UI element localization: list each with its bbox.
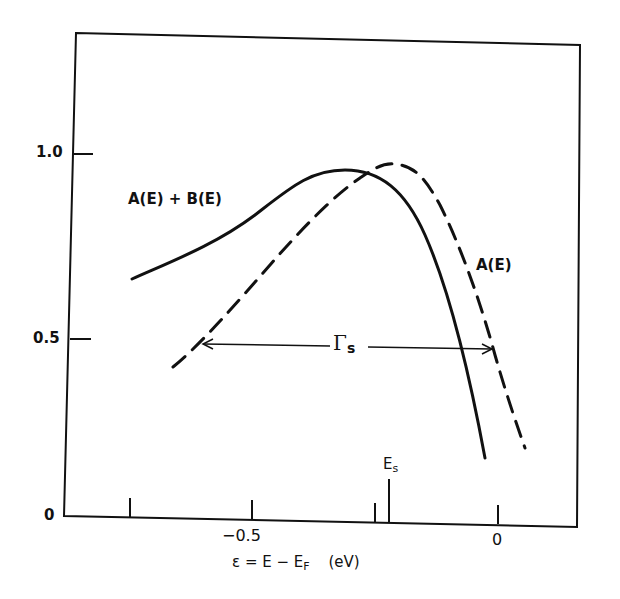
- gamma-subscript: s: [347, 340, 355, 356]
- x-tick-label-m05: −0.5: [222, 526, 261, 545]
- y-tick-label-1: 1.0: [36, 143, 63, 161]
- gamma-symbol: Γ: [333, 331, 347, 355]
- plot-frame: [64, 33, 580, 527]
- curve-a-plus-b: [132, 170, 485, 458]
- es-label: Es: [383, 455, 398, 475]
- x-tick-label-0: 0: [492, 530, 502, 549]
- y-tick-label-05: 0.5: [33, 329, 60, 347]
- series-label-a: A(E): [476, 256, 512, 274]
- curve-a: [173, 164, 525, 448]
- gamma-arrow-right: [368, 347, 492, 349]
- gamma-arrow-left: [203, 344, 330, 346]
- es-subscript: s: [392, 462, 398, 475]
- gamma-s-label: Γs: [333, 331, 355, 356]
- chart-canvas: [0, 0, 620, 599]
- y-tick-label-0: 0: [44, 506, 54, 524]
- x-axis-label: ε = E − EF (eV): [232, 553, 360, 573]
- series-label-a-plus-b: A(E) + B(E): [128, 190, 222, 208]
- x-axis-label-sub: F: [303, 560, 309, 573]
- x-axis-label-unit: (eV): [328, 553, 359, 571]
- x-axis-label-main: ε = E − E: [232, 553, 303, 571]
